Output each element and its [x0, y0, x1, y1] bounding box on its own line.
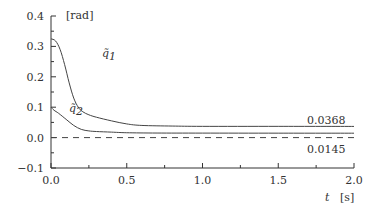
y-tick-label: −0.1 — [17, 162, 44, 175]
x-tick-label: 1.0 — [194, 174, 212, 187]
x-tick-label: 0.0 — [42, 174, 60, 187]
svg-text:2: 2 — [75, 105, 83, 118]
svg-text:1: 1 — [109, 50, 116, 63]
q2-end-annotation: 0.0145 — [307, 143, 346, 156]
series-label-q1: q̃ 1 — [102, 47, 116, 63]
x-tick-label: 2.0 — [345, 174, 363, 187]
y-tick-label: 0.2 — [27, 71, 45, 84]
svg-text:q̃: q̃ — [69, 102, 76, 115]
chart: −0.10.00.10.20.30.40.00.51.01.52.0 [rad]… — [0, 0, 380, 217]
y-unit-label: [rad] — [66, 9, 93, 22]
x-axis-label: t — [325, 191, 330, 204]
axes: −0.10.00.10.20.30.40.00.51.01.52.0 — [17, 10, 362, 187]
x-unit-label: [s] — [340, 191, 354, 204]
y-tick-label: 0.0 — [27, 132, 45, 145]
y-tick-label: 0.1 — [27, 101, 45, 114]
q1-end-annotation: 0.0368 — [307, 114, 346, 127]
y-tick-label: 0.3 — [27, 40, 45, 53]
svg-text:q̃: q̃ — [102, 47, 109, 60]
x-tick-label: 0.5 — [118, 174, 136, 187]
x-tick-label: 1.5 — [270, 174, 288, 187]
y-tick-label: 0.4 — [27, 10, 45, 23]
series-label-q2: q̃ 2 — [69, 102, 83, 118]
